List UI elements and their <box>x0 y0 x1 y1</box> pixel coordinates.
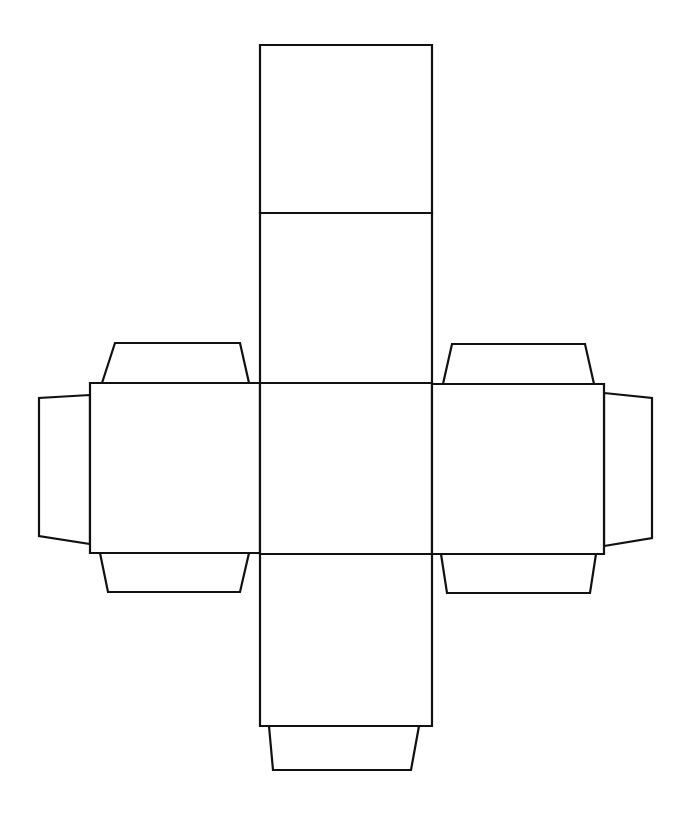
top-face <box>260 45 432 213</box>
left-face-bottom-tab <box>100 553 249 592</box>
cube-faces <box>90 45 604 726</box>
left-face-side-tab <box>39 395 90 544</box>
right-face-top-tab <box>443 344 594 384</box>
upper-middle-face <box>260 213 432 383</box>
cube-net-diagram <box>0 0 695 814</box>
right-face <box>432 384 604 554</box>
left-face <box>90 383 260 553</box>
center-face <box>260 383 432 554</box>
right-face-bottom-tab <box>441 554 596 593</box>
right-face-side-tab <box>604 393 652 546</box>
bottom-face <box>260 554 432 726</box>
bottom-face-tab <box>269 726 419 770</box>
left-face-top-tab <box>102 343 249 383</box>
